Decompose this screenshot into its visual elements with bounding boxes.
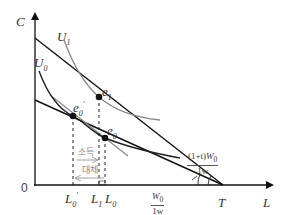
endpoint-t-label: T [218,196,225,209]
e0-label: e0 [107,124,117,141]
y-axis-label: C [16,15,25,28]
income-effect-label: 소득 [78,148,94,157]
e0-prime-label: e0′ [73,101,85,118]
l0-tick-label: L0 [105,192,116,209]
angle-arc-after-tax [208,176,211,185]
slope-after-tax-label: (1+t)W0 1w [187,152,218,176]
u0-label: U0 [34,56,47,73]
angle-arrow-before-tax [192,176,197,180]
x-axis-label: L [263,196,270,209]
e1-label: e1 [102,85,112,102]
labor-leisure-diagram [0,0,302,215]
slope-before-tax-label: W0 1w [151,192,164,215]
origin-label: 0 [21,181,28,195]
substitution-effect-label: 대체 [82,166,98,175]
l1-tick-label: L1 [91,192,102,209]
l0-prime-tick-label: L0′ [65,192,78,209]
u1-label: U1 [57,30,70,47]
